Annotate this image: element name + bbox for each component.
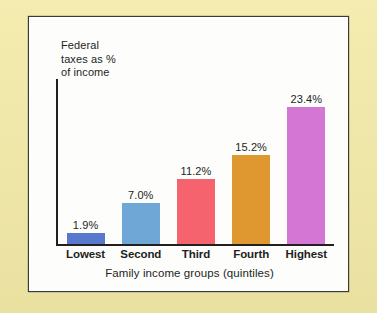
chart-panel: Federal taxes as % of income 1.9%7.0%11.… [28, 16, 349, 292]
category-label-fourth: Fourth [229, 248, 273, 260]
bar-second [122, 203, 160, 244]
bar-highest [287, 107, 325, 244]
bar-value-label: 11.2% [181, 165, 212, 177]
y-axis-label: Federal taxes as % of income [61, 39, 116, 80]
category-label-row: LowestSecondThirdFourthHighest [58, 248, 334, 260]
bar-fourth [232, 155, 270, 244]
bar-third [177, 179, 215, 244]
category-label-third: Third [174, 248, 218, 260]
bar-group: 23.4% [287, 79, 325, 244]
bar-group: 15.2% [232, 79, 270, 244]
bar-group: 1.9% [67, 79, 105, 244]
category-label-lowest: Lowest [64, 248, 108, 260]
bar-value-label: 23.4% [290, 93, 322, 105]
category-label-second: Second [119, 248, 163, 260]
bar-lowest [67, 233, 105, 244]
category-label-highest: Highest [284, 248, 328, 260]
x-axis-title: Family income groups (quintiles) [29, 267, 350, 279]
x-axis-line [56, 244, 334, 246]
bar-value-label: 7.0% [128, 189, 153, 201]
bar-group: 7.0% [122, 79, 160, 244]
bar-series: 1.9%7.0%11.2%15.2%23.4% [58, 79, 334, 244]
bar-value-label: 1.9% [73, 219, 98, 231]
bar-group: 11.2% [177, 79, 215, 244]
bar-value-label: 15.2% [235, 141, 267, 153]
plot-area: 1.9%7.0%11.2%15.2%23.4% [56, 79, 334, 244]
